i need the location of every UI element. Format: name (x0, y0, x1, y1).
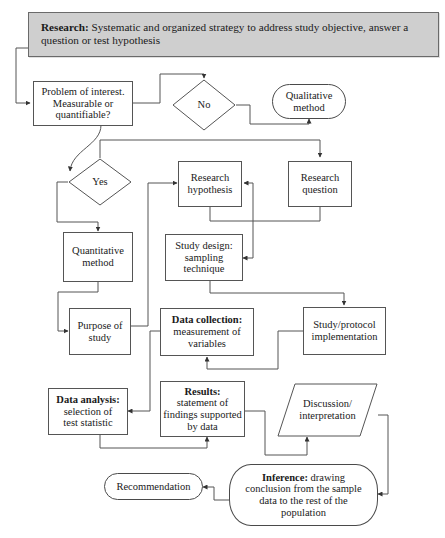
node-results-text: Results: statement of findings supported… (161, 386, 243, 433)
node-research-label-rest: Systematic and organized strategy to add… (41, 21, 408, 46)
node-research-hypothesis: Research hypothesis (178, 161, 242, 207)
node-study-protocol-implementation-label: Study/protocol implementation (310, 319, 380, 343)
node-data-collection-text: Data collection: measurement of variable… (170, 314, 244, 349)
node-recommendation-label: Recommendation (114, 481, 192, 493)
node-research-label-bold: Research: (41, 21, 89, 33)
node-inference-text: Inference: drawing conclusion from the s… (239, 472, 368, 519)
node-recommendation: Recommendation (104, 473, 203, 500)
node-qualitative-method: Qualitative method (272, 84, 346, 119)
node-research-text: Research: Systematic and organized strat… (39, 21, 430, 46)
node-purpose-of-study: Purpose of study (69, 308, 131, 355)
node-results-label-bold: Results: (184, 386, 220, 397)
edge-discussion-to-inference (378, 415, 388, 494)
node-research-hypothesis-label: Research hypothesis (186, 172, 235, 196)
node-decision-yes-label: Yes (90, 176, 109, 188)
node-problem-of-interest-label: Problem of interest. Measurable or quant… (39, 86, 126, 121)
node-results-label-rest: statement of findings supported by data (163, 397, 241, 432)
edge-data-collection-to-data-analysis (128, 331, 160, 411)
edge-research-question-to-research-hypothesis (210, 206, 320, 221)
node-decision-yes: Yes (68, 158, 132, 206)
node-data-collection-label-rest: measurement of variables (173, 326, 240, 349)
node-inference-label-bold: Inference: (262, 472, 308, 483)
node-data-analysis-label-bold: Data analysis: (56, 394, 119, 405)
node-inference: Inference: drawing conclusion from the s… (229, 464, 378, 526)
node-study-protocol-implementation: Study/protocol implementation (303, 307, 386, 355)
node-data-collection: Data collection: measurement of variable… (160, 308, 254, 356)
edge-study-design-to-study-protocol (210, 281, 344, 305)
node-quantitative-method-label: Quantitative method (70, 245, 126, 269)
node-decision-no: No (172, 79, 236, 131)
node-research-question: Research question (288, 161, 352, 207)
node-data-collection-label-bold: Data collection: (172, 314, 242, 325)
node-quantitative-method: Quantitative method (63, 232, 133, 282)
node-problem-of-interest: Problem of interest. Measurable or quant… (33, 81, 133, 126)
node-data-analysis-text: Data analysis: selection of test statist… (54, 394, 121, 429)
node-research-question-label: Research question (299, 172, 341, 196)
node-study-design: Study design: sampling technique (165, 234, 243, 281)
node-qualitative-method-label: Qualitative method (284, 90, 335, 114)
node-discussion-interpretation: Discussion/ interpretation (277, 383, 378, 437)
node-discussion-interpretation-label: Discussion/ interpretation (297, 398, 358, 422)
edge-yes-to-research-question (100, 140, 320, 158)
node-study-design-label: Study design: sampling technique (173, 240, 234, 275)
node-results: Results: statement of findings supported… (160, 381, 245, 437)
node-data-analysis-label-rest: selection of test statistic (63, 406, 112, 429)
flowchart-canvas: Research: Systematic and organized strat… (0, 0, 445, 538)
node-purpose-of-study-label: Purpose of study (75, 320, 124, 344)
edge-inference-to-recommendation (203, 487, 229, 500)
node-research: Research: Systematic and organized strat… (28, 12, 439, 57)
node-data-analysis: Data analysis: selection of test statist… (48, 388, 128, 435)
node-decision-no-label: No (196, 99, 213, 111)
